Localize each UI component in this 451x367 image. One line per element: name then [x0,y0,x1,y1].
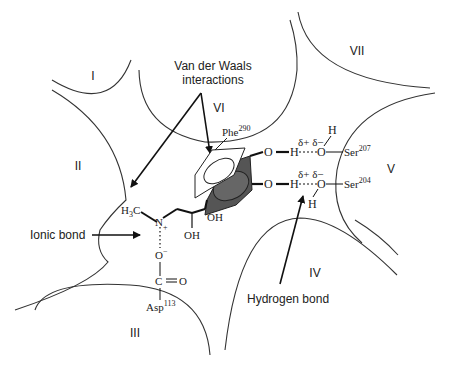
hbond-atoms: O O H H O O H H δ+ δ− δ+ δ− [264,123,337,211]
region-label-I: I [91,69,94,83]
svg-text:O: O [179,275,187,287]
boundary-region-II [15,90,126,310]
vdw-label-line2: interactions [182,73,243,87]
vdw-label-line1: Van der Waals [174,59,251,73]
phe-residue-label: Phe290 [222,124,251,138]
svg-text:O: O [264,145,273,159]
side-chain-atoms: H3C N+ O− C O OH OH [121,204,223,287]
region-label-II: II [75,159,82,173]
svg-text:O: O [264,177,273,191]
asp113-residue-label: Asp113 [146,299,175,313]
phe-connector [215,138,227,150]
region-label-V: V [387,162,395,176]
svg-text:N+: N+ [155,216,168,232]
svg-text:H: H [308,197,317,211]
ionic-bond-label: Ionic bond [30,228,85,242]
svg-text:H3C: H3C [121,204,140,219]
svg-text:O−: O− [155,247,168,261]
svg-text:H: H [328,123,337,137]
partial-charges-bottom: δ+ δ− [298,168,324,180]
receptor-binding-diagram: I II III IV V VI VII Van der Waals inter… [0,0,451,367]
region-label-VI: VI [213,101,224,115]
boundary-region-IV [225,218,397,350]
vdw-arrow-to-ligand [131,93,201,187]
svg-text:OH: OH [207,211,223,223]
ser204-residue-label: Ser204 [344,176,371,190]
region-label-III: III [130,326,140,340]
boundary-region-V-lower [355,220,398,255]
aromatic-rings [195,138,254,215]
boundary-region-III [35,284,210,355]
boundary-region-V [336,93,435,243]
svg-text:C: C [155,275,162,287]
svg-text:OH: OH [184,229,200,241]
vdw-arrow-to-ring [201,93,210,153]
region-label-VII: VII [350,44,365,58]
hydrogen-bond-arrow [280,196,303,284]
side-chain-bonds [141,200,207,300]
partial-charges-top: δ+ δ− [298,136,324,148]
hydrogen-bond-label: Hydrogen bond [247,292,329,306]
ser207-residue-label: Ser207 [344,144,371,158]
region-label-IV: IV [309,266,320,280]
